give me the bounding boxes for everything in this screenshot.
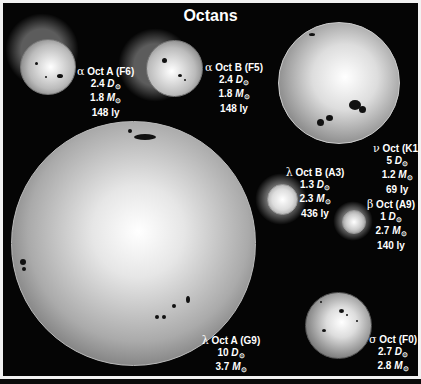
star-alpha-oct-b[interactable] [146, 40, 203, 97]
label-beta-oct: β Oct (A9) 1 D⊙ 2.7 M⊙ 140 ly [367, 199, 415, 251]
label-sigma-oct: σ Oct (F0) 2.7 D⊙ 2.8 M⊙ 270 ly [369, 334, 417, 376]
star-lambda-oct-a[interactable] [11, 121, 256, 366]
star-sigma-oct[interactable] [305, 292, 372, 359]
star-nu-oct[interactable] [278, 22, 400, 144]
star-alpha-oct-a[interactable] [20, 39, 76, 95]
label-alpha-oct-b: α Oct B (F5) 2.4 D⊙ 1.8 M⊙ 148 ly [205, 62, 263, 114]
label-nu-oct: ν Oct (K1) 5 D⊙ 1.2 M⊙ 69 ly [373, 143, 418, 195]
bottom-bar [0, 379, 421, 384]
star-comparison-panel: Octans α Oct A (F6) 2.4 D⊙ 1.8 M⊙ 148 ly… [3, 3, 418, 376]
star-beta-oct[interactable] [342, 210, 366, 234]
label-lambda-oct-a: λ Oct A (G9) 10 D⊙ 3.7 M⊙ 436 ly [202, 335, 260, 376]
